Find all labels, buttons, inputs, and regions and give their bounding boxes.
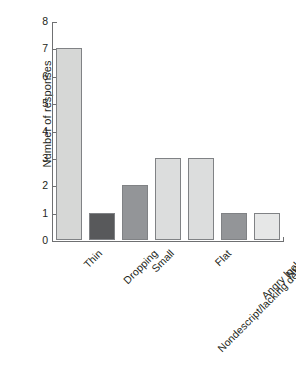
y-tick-label: 2 bbox=[42, 179, 48, 192]
bar bbox=[89, 213, 115, 240]
y-tick-label: 3 bbox=[42, 152, 48, 165]
bar bbox=[188, 158, 214, 240]
y-tick-label: 1 bbox=[42, 207, 48, 220]
x-tick-label: Nondescript/lacking definition bbox=[214, 247, 296, 354]
bar bbox=[122, 185, 148, 240]
y-tick-mark bbox=[52, 22, 57, 23]
x-axis-line bbox=[52, 241, 284, 242]
y-tick-mark bbox=[52, 241, 57, 242]
y-tick-label: 4 bbox=[42, 125, 48, 138]
plot-area: 012345678 bbox=[52, 22, 283, 241]
x-tick-label: Thin bbox=[81, 247, 104, 270]
bar-chart-figure: Number of responses 012345678 ThinDroppi… bbox=[0, 0, 296, 369]
bar bbox=[254, 213, 280, 240]
y-tick-label: 8 bbox=[42, 15, 48, 28]
bar bbox=[155, 158, 181, 240]
x-tick-label: Flat bbox=[212, 247, 233, 268]
y-tick-label: 0 bbox=[42, 234, 48, 247]
x-axis-right-end-tick bbox=[283, 237, 284, 241]
y-tick-label: 6 bbox=[42, 70, 48, 83]
bar bbox=[56, 48, 82, 240]
bar bbox=[221, 213, 247, 240]
y-tick-label: 5 bbox=[42, 97, 48, 110]
y-tick-label: 7 bbox=[42, 42, 48, 55]
